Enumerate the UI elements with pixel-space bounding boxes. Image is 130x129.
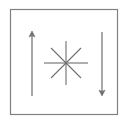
ray-northwest	[51, 48, 66, 63]
center-asterisk-star	[44, 41, 88, 85]
right-down-arrow	[99, 32, 105, 96]
left-up-arrow	[29, 31, 35, 96]
line-diagram	[0, 0, 130, 129]
ray-northeast	[66, 48, 81, 63]
diagram-canvas: Radiating star with vertical arrows A th…	[0, 0, 130, 129]
ray-southwest	[51, 63, 66, 78]
ray-southeast	[66, 63, 81, 78]
